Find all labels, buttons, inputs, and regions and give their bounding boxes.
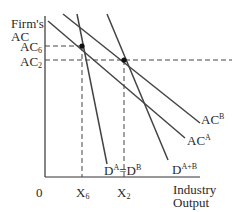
d-a-plus-b-label: DA+B: [172, 160, 197, 176]
d-a-eq-d-b-label: DA=DB: [104, 161, 141, 177]
equilibrium-point-2: [121, 57, 126, 62]
ac-b-label: ACB: [201, 110, 224, 126]
x-tick-x6: X6: [76, 186, 89, 203]
x-axis-label-line2: Output: [173, 195, 209, 210]
x-tick-x2: X2: [117, 186, 130, 203]
y-tick-ac2: AC2: [20, 55, 42, 72]
d-a-plus-b-curve: [107, 14, 168, 160]
x-axis-label: Industry Output: [173, 183, 216, 209]
ac-a-label: ACA: [187, 131, 211, 147]
ac-b-curve: [63, 14, 200, 123]
equilibrium-point-6: [79, 43, 84, 48]
origin-label: 0: [36, 186, 43, 199]
